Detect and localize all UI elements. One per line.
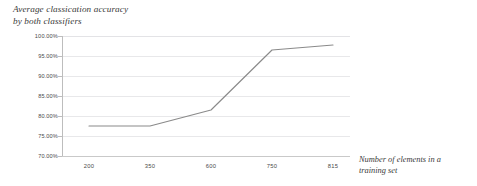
y-axis-tick-mark bbox=[58, 76, 62, 77]
x-axis-caption-line-1: Number of elements in a bbox=[359, 155, 475, 166]
y-axis-tick-mark bbox=[58, 136, 62, 137]
x-axis-caption: Number of elements in a training set bbox=[359, 155, 475, 176]
y-axis-tick-mark bbox=[58, 56, 62, 57]
y-axis-tick-mark bbox=[58, 156, 62, 157]
y-axis-tick-mark bbox=[58, 36, 62, 37]
y-axis-tick-mark bbox=[58, 116, 62, 117]
chart-container: Average classication accuracy by both cl… bbox=[0, 0, 477, 186]
x-axis-caption-line-2: training set bbox=[359, 166, 475, 177]
y-axis-tick-mark bbox=[58, 96, 62, 97]
